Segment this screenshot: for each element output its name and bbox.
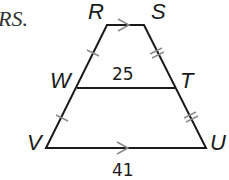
vertex-label-s: S — [151, 0, 166, 24]
midsegment-length: 25 — [112, 64, 134, 84]
vertex-label-w: W — [50, 68, 73, 93]
vertex-label-r: R — [88, 0, 104, 24]
trapezoid-diagram: RS. R S W T V U 25 41 — [0, 0, 229, 180]
vertex-label-t: T — [180, 68, 195, 93]
vertex-label-u: U — [210, 130, 226, 155]
vertex-label-v: V — [27, 130, 44, 155]
caption-fragment: RS. — [0, 6, 28, 31]
base-length: 41 — [112, 160, 134, 180]
